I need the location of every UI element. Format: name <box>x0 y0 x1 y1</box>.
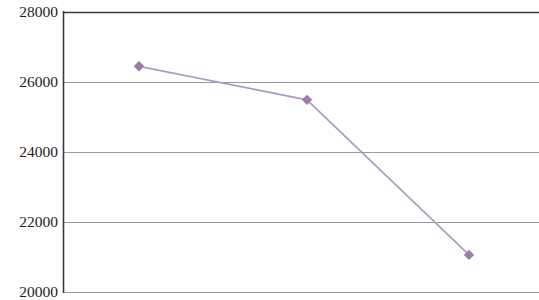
data-markers <box>134 61 474 260</box>
data-line <box>139 66 469 255</box>
data-point-marker <box>134 61 144 71</box>
gridlines <box>64 13 539 293</box>
